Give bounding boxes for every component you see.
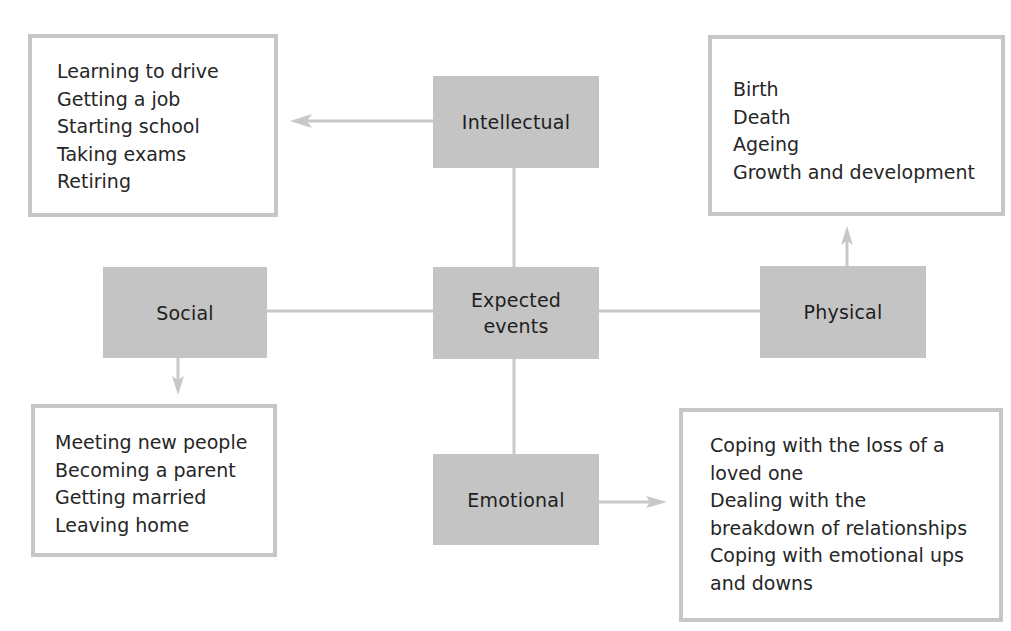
examples-intellectual-list: Learning to drive Getting a job Starting… bbox=[57, 58, 274, 196]
examples-social: Meeting new people Becoming a parent Get… bbox=[31, 404, 277, 557]
list-item: Coping with the loss of a bbox=[710, 432, 999, 460]
list-item: loved one bbox=[710, 460, 999, 488]
list-item: Meeting new people bbox=[55, 429, 273, 457]
category-emotional-label: Emotional bbox=[467, 487, 564, 513]
list-item: Becoming a parent bbox=[55, 457, 273, 485]
category-social-label: Social bbox=[156, 300, 214, 326]
list-item: Getting a job bbox=[57, 86, 274, 114]
examples-emotional: Coping with the loss of a loved one Deal… bbox=[679, 408, 1003, 622]
category-physical: Physical bbox=[760, 266, 926, 358]
center-expected-events: Expected events bbox=[433, 267, 599, 359]
examples-emotional-list: Coping with the loss of a loved one Deal… bbox=[710, 432, 999, 597]
list-item: Birth bbox=[733, 76, 1001, 104]
list-item: and downs bbox=[710, 570, 999, 598]
list-item: Getting married bbox=[55, 484, 273, 512]
list-item: Leaving home bbox=[55, 512, 273, 540]
list-item: Dealing with the bbox=[710, 487, 999, 515]
list-item: Death bbox=[733, 104, 1001, 132]
list-item: Growth and development bbox=[733, 159, 1001, 187]
list-item: breakdown of relationships bbox=[710, 515, 999, 543]
examples-social-list: Meeting new people Becoming a parent Get… bbox=[55, 429, 273, 539]
list-item: Coping with emotional ups bbox=[710, 542, 999, 570]
examples-physical: Birth Death Ageing Growth and developmen… bbox=[708, 35, 1005, 216]
category-social: Social bbox=[103, 267, 267, 358]
examples-physical-list: Birth Death Ageing Growth and developmen… bbox=[733, 76, 1001, 186]
category-emotional: Emotional bbox=[433, 454, 599, 545]
list-item: Learning to drive bbox=[57, 58, 274, 86]
list-item: Retiring bbox=[57, 168, 274, 196]
category-intellectual: Intellectual bbox=[433, 76, 599, 168]
examples-intellectual: Learning to drive Getting a job Starting… bbox=[28, 34, 278, 217]
list-item: Starting school bbox=[57, 113, 274, 141]
center-label: Expected events bbox=[471, 287, 561, 339]
list-item: Ageing bbox=[733, 131, 1001, 159]
list-item: Taking exams bbox=[57, 141, 274, 169]
category-physical-label: Physical bbox=[804, 299, 883, 325]
category-intellectual-label: Intellectual bbox=[462, 109, 570, 135]
